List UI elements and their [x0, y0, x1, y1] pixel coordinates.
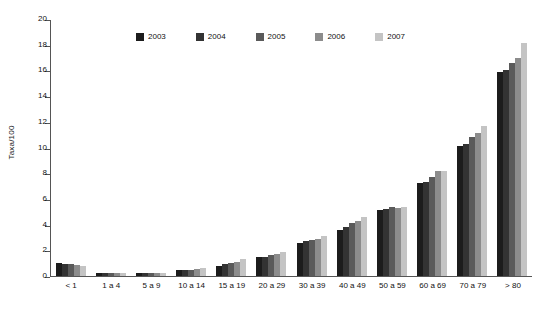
bar-group: [131, 20, 171, 276]
y-tick-label: 6: [25, 194, 47, 203]
bar: [280, 252, 286, 276]
x-tick-label: 70 a 79: [453, 281, 493, 290]
bar-groups: [51, 20, 532, 276]
legend-item-2007: 2007: [375, 33, 405, 41]
bar: [80, 266, 86, 276]
legend-item-2004: 2004: [196, 33, 226, 41]
y-tick-label: 2: [25, 245, 47, 254]
bar-group: [372, 20, 412, 276]
bar: [200, 268, 206, 276]
y-tick-label: 18: [25, 40, 47, 49]
bar-group: [251, 20, 291, 276]
x-tick-label: 1 a 4: [91, 281, 131, 290]
y-tick-label: 0: [25, 271, 47, 280]
bar: [160, 273, 166, 276]
bar: [521, 43, 527, 276]
x-tick-label: 50 a 59: [372, 281, 412, 290]
bar: [481, 126, 487, 276]
x-tick-label: 20 a 29: [252, 281, 292, 290]
x-tick-label: 15 a 19: [212, 281, 252, 290]
bar: [441, 171, 447, 276]
x-tick-label: 40 a 49: [332, 281, 372, 290]
y-tick-label: 8: [25, 168, 47, 177]
bar-group: [492, 20, 532, 276]
legend-label: 2005: [268, 33, 286, 41]
legend: 20032004200520062007: [136, 33, 405, 41]
legend-item-2005: 2005: [256, 33, 286, 41]
legend-label: 2004: [208, 33, 226, 41]
legend-item-2003: 2003: [136, 33, 166, 41]
legend-label: 2003: [148, 33, 166, 41]
legend-swatch-icon: [196, 33, 204, 41]
legend-item-2006: 2006: [315, 33, 345, 41]
legend-swatch-icon: [256, 33, 264, 41]
y-axis-title: Taxa/100: [2, 0, 20, 285]
legend-swatch-icon: [136, 33, 144, 41]
plot-area: 02468101214161820: [50, 20, 532, 277]
bar: [120, 273, 126, 276]
y-tick-label: 16: [25, 65, 47, 74]
bar-group: [332, 20, 372, 276]
bar: [401, 207, 407, 276]
legend-label: 2007: [387, 33, 405, 41]
y-tick-label: 20: [25, 14, 47, 23]
bar-group: [171, 20, 211, 276]
x-tick-label: > 80: [493, 281, 533, 290]
bar-group: [211, 20, 251, 276]
x-tick-label: 30 a 39: [292, 281, 332, 290]
bar-group: [51, 20, 91, 276]
y-tick-label: 10: [25, 143, 47, 152]
y-tick-label: 4: [25, 220, 47, 229]
x-axis-labels: < 11 a 45 a 910 a 1415 a 1920 a 2930 a 3…: [51, 281, 533, 290]
bar: [240, 259, 246, 276]
bar-group: [91, 20, 131, 276]
bar-chart: Taxa/100 02468101214161820 < 11 a 45 a 9…: [0, 0, 539, 310]
bar: [321, 236, 327, 276]
x-axis-line: [50, 276, 532, 277]
bar: [361, 217, 367, 276]
bar-group: [412, 20, 452, 276]
x-tick-label: 10 a 14: [172, 281, 212, 290]
x-tick-label: 5 a 9: [131, 281, 171, 290]
y-tick-label: 12: [25, 117, 47, 126]
y-axis-title-text: Taxa/100: [7, 125, 16, 159]
legend-label: 2006: [327, 33, 345, 41]
legend-swatch-icon: [375, 33, 383, 41]
bar-group: [452, 20, 492, 276]
legend-swatch-icon: [315, 33, 323, 41]
x-tick-label: < 1: [51, 281, 91, 290]
bar-group: [291, 20, 331, 276]
x-tick-label: 60 a 69: [413, 281, 453, 290]
y-tick-label: 14: [25, 91, 47, 100]
